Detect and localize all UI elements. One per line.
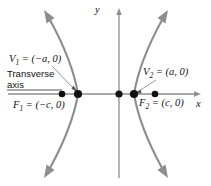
point-center xyxy=(115,90,122,97)
label-focus-right: F2 = (c, 0) xyxy=(139,97,184,112)
x-axis-label: x xyxy=(196,98,201,109)
hyperbola-figure: V1 = (−a, 0) Transverse axis F1 = (−c, 0… xyxy=(0,0,211,186)
y-axis-label: y xyxy=(95,4,100,15)
label-transverse-axis-line2: axis xyxy=(7,79,54,90)
label-vertex-right: V2 = (a, 0) xyxy=(143,66,188,81)
label-vertex-left: V1 = (−a, 0) xyxy=(9,53,61,68)
x-axis xyxy=(8,91,201,96)
point-vertex-left xyxy=(74,90,82,98)
label-focus-left: F1 = (−c, 0) xyxy=(13,99,65,114)
label-transverse-axis-line1: Transverse xyxy=(7,68,54,79)
label-transverse-axis: Transverse axis xyxy=(7,68,54,90)
figure-canvas xyxy=(0,0,211,186)
point-vertex-right xyxy=(130,90,138,98)
point-focus-left xyxy=(59,91,66,98)
